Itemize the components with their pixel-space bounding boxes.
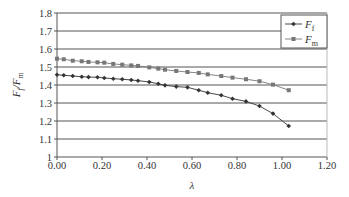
x-tick-label: 0.20 [93,160,111,171]
data-point [61,73,66,78]
y-tick-label: 1.5 [39,62,52,73]
data-point [96,60,100,64]
data-point [219,74,223,78]
data-point [120,63,124,67]
y-tick-label: 1.4 [39,80,53,91]
data-point [163,83,168,88]
data-point [120,77,125,82]
data-point [205,90,210,95]
data-point [80,59,84,63]
data-point [62,57,66,61]
x-tick-label: 0.60 [183,160,201,171]
data-point [136,64,140,68]
data-point [147,65,151,69]
data-point [87,60,91,64]
data-point [230,96,235,101]
x-tick-label: 1.20 [318,160,336,171]
x-tick-label: 0.80 [228,160,246,171]
data-point [206,72,210,76]
data-point [185,85,190,90]
data-point [129,78,134,83]
data-point [271,83,275,87]
data-point [102,76,107,81]
series-line-Ff [57,75,289,126]
data-point [174,69,178,73]
data-point [55,72,60,77]
data-point [136,78,141,83]
y-axis-ticks: 11.11.21.31.41.51.61.71.8 [39,8,57,163]
data-point [86,75,91,80]
x-axis-ticks: 0.000.200.400.600.801.001.20 [48,157,336,171]
legend: FfFm [281,15,327,48]
data-point [111,62,115,66]
x-tick-label: 0.40 [138,160,156,171]
data-point [258,79,262,83]
legend-marker-square [292,37,296,41]
y-tick-label: 1.1 [39,134,52,145]
data-point [244,77,248,81]
data-point [196,88,201,93]
data-point [55,57,59,61]
legend-box [281,15,327,48]
data-point [257,104,262,109]
data-point [70,74,75,79]
x-tick-label: 0.00 [48,160,66,171]
svg-text:Ff/Fm: Ff/Fm [10,73,25,99]
data-point [197,71,201,75]
data-point [287,88,291,92]
y-tick-label: 1.3 [39,98,52,109]
data-point [186,70,190,74]
line-chart: 11.11.21.31.41.51.61.71.8 0.000.200.400.… [0,0,349,197]
data-point [156,67,160,71]
data-point [129,63,133,67]
data-point [163,68,167,72]
y-tick-label: 1.2 [39,116,52,127]
data-point [231,76,235,80]
data-point [71,59,75,63]
y-axis-label: Ff/Fm [10,73,25,99]
data-point [147,80,152,85]
y-tick-label: 1.7 [39,26,52,37]
data-point [102,61,106,65]
x-axis-label: λ [189,179,195,191]
y-tick-label: 1.6 [39,44,52,55]
data-point [111,76,116,81]
y-tick-label: 1.8 [39,8,52,19]
data-point [95,75,100,80]
x-tick-label: 1.00 [273,160,291,171]
data-point [79,74,84,79]
data-point [219,93,224,98]
